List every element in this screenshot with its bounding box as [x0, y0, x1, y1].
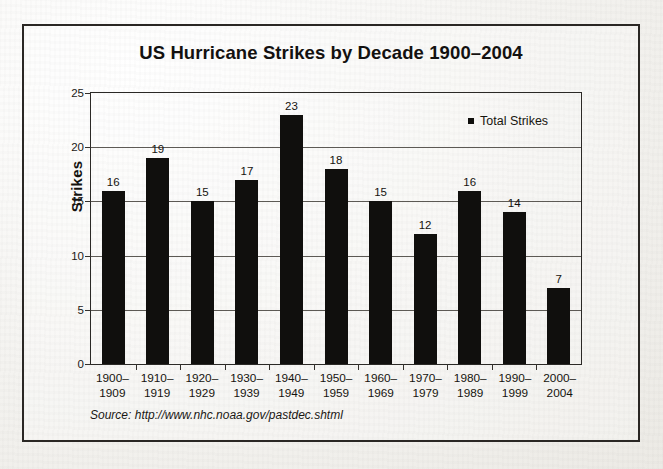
- bar-slot: 18: [314, 93, 359, 364]
- bar[interactable]: 16: [102, 191, 125, 364]
- y-tick-label: 20: [71, 141, 84, 153]
- bar-slot: 16: [91, 93, 136, 364]
- x-axis-label: 1950–1959: [314, 371, 359, 401]
- x-axis-label-line: 1900–: [90, 371, 135, 386]
- source-label: Source:: [90, 408, 131, 422]
- bar-value-label: 23: [285, 100, 298, 112]
- bar[interactable]: 15: [369, 201, 392, 364]
- x-axis-label-line: 1979: [403, 386, 448, 401]
- bar-slot: 15: [180, 93, 225, 364]
- y-tick-mark: [85, 364, 91, 365]
- x-axis-label-line: 1990–: [493, 371, 538, 386]
- bar-slot: 19: [136, 93, 181, 364]
- x-tick-mark: [269, 364, 270, 370]
- x-axis-label: 1910–1919: [135, 371, 180, 401]
- y-tick-label: 25: [71, 87, 84, 99]
- y-tick-label: 5: [78, 304, 84, 316]
- x-tick-mark: [536, 364, 537, 370]
- x-axis-label-line: 1999: [493, 386, 538, 401]
- x-axis-label-line: 2000–: [537, 371, 582, 386]
- x-axis-label-line: 1910–: [135, 371, 180, 386]
- bar[interactable]: 7: [547, 288, 570, 364]
- x-axis-label: 1970–1979: [403, 371, 448, 401]
- x-axis-label: 2000–2004: [537, 371, 582, 401]
- x-axis-label-line: 1950–: [314, 371, 359, 386]
- x-axis-label-line: 1959: [314, 386, 359, 401]
- source-url: http://www.nhc.noaa.gov/pastdec.shtml: [135, 408, 343, 422]
- bar-value-label: 7: [556, 273, 562, 285]
- x-tick-mark: [314, 364, 315, 370]
- x-tick-mark: [403, 364, 404, 370]
- x-tick-mark: [136, 364, 137, 370]
- bar[interactable]: 17: [235, 180, 258, 364]
- x-axis-label-line: 1940–: [269, 371, 314, 386]
- x-axis-labels: 1900–19091910–19191920–19291930–19391940…: [90, 371, 582, 401]
- bar-slot: 17: [225, 93, 270, 364]
- source-note: Source: http://www.nhc.noaa.gov/pastdec.…: [90, 408, 343, 422]
- x-axis-label-line: 1970–: [403, 371, 448, 386]
- x-tick-mark: [447, 364, 448, 370]
- x-axis-label-line: 1909: [90, 386, 135, 401]
- x-axis-label-line: 1930–: [224, 371, 269, 386]
- y-tick-label: 10: [71, 250, 84, 262]
- plot-area: 0510152025 161915172318151216147: [90, 92, 582, 365]
- bar[interactable]: 18: [325, 169, 348, 364]
- bar-value-label: 14: [508, 197, 521, 209]
- bar-slot: 12: [403, 93, 448, 364]
- x-axis-label: 1920–1929: [179, 371, 224, 401]
- bar-slot: 14: [492, 93, 537, 364]
- x-axis-label-line: 1939: [224, 386, 269, 401]
- x-axis-label: 1930–1939: [224, 371, 269, 401]
- x-axis-label: 1980–1989: [448, 371, 493, 401]
- bar-value-label: 12: [419, 219, 432, 231]
- bar[interactable]: 14: [503, 212, 526, 364]
- x-axis-label-line: 1969: [358, 386, 403, 401]
- y-tick-label: 15: [71, 195, 84, 207]
- x-tick-mark: [358, 364, 359, 370]
- x-axis-label: 1940–1949: [269, 371, 314, 401]
- bar[interactable]: 23: [280, 115, 303, 364]
- x-axis-label: 1900–1909: [90, 371, 135, 401]
- bar-value-label: 16: [107, 176, 120, 188]
- bar-slot: 15: [358, 93, 403, 364]
- bar[interactable]: 12: [414, 234, 437, 364]
- x-axis-label: 1990–1999: [493, 371, 538, 401]
- x-axis-label-line: 1960–: [358, 371, 403, 386]
- y-tick-label: 0: [78, 358, 84, 370]
- x-axis-label-line: 1920–: [179, 371, 224, 386]
- x-axis-label-line: 2004: [537, 386, 582, 401]
- bar-value-label: 17: [241, 165, 254, 177]
- bar-value-label: 15: [196, 186, 209, 198]
- x-axis-label-line: 1980–: [448, 371, 493, 386]
- x-tick-mark: [180, 364, 181, 370]
- x-axis-label-line: 1989: [448, 386, 493, 401]
- bar-value-label: 19: [151, 143, 164, 155]
- scanned-page-background: US Hurricane Strikes by Decade 1900–2004…: [0, 0, 663, 469]
- bar-value-label: 16: [463, 176, 476, 188]
- bar-slot: 16: [447, 93, 492, 364]
- bar-series: 161915172318151216147: [91, 93, 581, 364]
- chart-title: US Hurricane Strikes by Decade 1900–2004: [24, 42, 638, 64]
- bar-value-label: 15: [374, 186, 387, 198]
- x-axis-label-line: 1949: [269, 386, 314, 401]
- bar[interactable]: 19: [146, 158, 169, 364]
- bar[interactable]: 16: [458, 191, 481, 364]
- bar-slot: 7: [536, 93, 581, 364]
- bar-slot: 23: [269, 93, 314, 364]
- x-tick-mark: [492, 364, 493, 370]
- bar[interactable]: 15: [191, 201, 214, 364]
- x-tick-mark: [225, 364, 226, 370]
- x-axis-label: 1960–1969: [358, 371, 403, 401]
- figure-frame: US Hurricane Strikes by Decade 1900–2004…: [22, 24, 640, 442]
- x-axis-label-line: 1919: [135, 386, 180, 401]
- bar-value-label: 18: [330, 154, 343, 166]
- x-axis-label-line: 1929: [179, 386, 224, 401]
